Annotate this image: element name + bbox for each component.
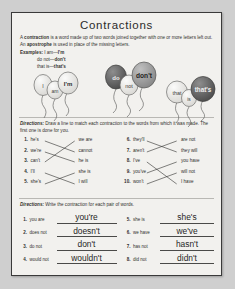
example-words-0: I am xyxy=(44,50,53,55)
table-row[interactable]: 2. we're cannot xyxy=(19,148,117,159)
matching-column-right: 6. they'll are not 7. aren't they will 8… xyxy=(117,137,215,190)
example-contraction-1: don't xyxy=(54,57,65,62)
item-contraction: I've xyxy=(133,158,169,163)
item-number: 7. xyxy=(122,148,134,153)
term-contraction: contraction xyxy=(24,35,49,40)
item-words: will not xyxy=(169,169,195,174)
item-word-pair: would not xyxy=(30,257,57,264)
item-number: 5. xyxy=(123,217,134,224)
answer-blank[interactable]: we've xyxy=(160,226,214,238)
divider-2 xyxy=(19,198,214,199)
examples-line-2: do not—don't xyxy=(20,57,66,64)
answer-blank[interactable]: you're xyxy=(57,212,117,224)
item-number: 7. xyxy=(123,244,134,251)
item-words: they will xyxy=(169,148,197,153)
item-contraction: she's xyxy=(31,179,67,184)
balloon-dont: don't xyxy=(132,62,156,88)
item-word-pair: do not xyxy=(30,244,57,251)
item-contraction: we're xyxy=(31,148,67,153)
writing-column-right: 5. she is she's 6. we have we've 7. has … xyxy=(117,210,215,264)
item-number: 4. xyxy=(19,169,31,174)
item-word-pair: we have xyxy=(133,230,160,237)
answer-blank[interactable]: wouldn't xyxy=(57,253,117,265)
directions-2-label: Directions: xyxy=(20,202,44,207)
item-contraction: can't xyxy=(31,158,67,163)
directions-1-label: Directions: xyxy=(20,121,44,126)
example-words-2: that is xyxy=(37,64,49,69)
item-number: 6. xyxy=(122,137,134,142)
answer-blank[interactable]: don't xyxy=(57,239,117,251)
balloon-label-not: not xyxy=(125,83,133,89)
balloon-am: am xyxy=(47,81,63,99)
table-row[interactable]: 8. I've you have xyxy=(122,158,215,169)
item-contraction: he's xyxy=(31,137,67,142)
item-contraction: they'll xyxy=(133,137,169,142)
item-number: 2. xyxy=(19,230,30,237)
answer-blank[interactable]: she's xyxy=(160,212,214,224)
examples-label: Examples: xyxy=(20,50,43,55)
item-number: 1. xyxy=(19,137,31,142)
balloon-i: I xyxy=(34,75,52,96)
list-item[interactable]: 3. do not don't xyxy=(19,237,117,251)
intro-post: is used in place of the missing letters. xyxy=(52,42,130,47)
item-word-pair: you are xyxy=(30,217,57,224)
balloon-thats: that's xyxy=(191,77,215,102)
writing-exercise: 1. you are you're 2. does not doesn't 3.… xyxy=(12,208,221,264)
page-title: Contractions xyxy=(12,19,221,31)
answer-blank[interactable]: doesn't xyxy=(57,226,117,238)
item-word-pair: she is xyxy=(133,217,160,224)
balloon-label-im: I'm xyxy=(64,81,72,87)
item-words: you have xyxy=(169,158,200,163)
balloon-label-thats: that's xyxy=(195,86,212,93)
table-row[interactable]: 9. you've will not xyxy=(122,169,215,180)
balloon-label-that: that xyxy=(173,90,182,96)
table-row[interactable]: 10. won't I have xyxy=(122,179,215,190)
item-word-pair: has not xyxy=(133,244,160,251)
table-row[interactable]: 7. aren't they will xyxy=(122,148,215,159)
item-number: 6. xyxy=(123,230,134,237)
answer-blank[interactable]: didn't xyxy=(160,253,214,265)
item-number: 1. xyxy=(19,217,30,224)
item-number: 8. xyxy=(123,257,134,264)
balloon-do: do xyxy=(106,65,127,89)
term-apostrophe: apostrophe xyxy=(27,42,52,47)
balloon-label-is: is xyxy=(187,97,191,102)
directions-2-text: Write the contraction for each pair of w… xyxy=(44,202,134,207)
item-words: I will xyxy=(67,179,88,184)
example-contraction-2: that's xyxy=(54,64,66,69)
item-number: 4. xyxy=(19,257,30,264)
table-row[interactable]: 6. they'll are not xyxy=(122,137,215,148)
list-item[interactable]: 2. does not doesn't xyxy=(19,224,117,238)
examples-list: Examples: I am—I'm do not—don't that is—… xyxy=(20,50,66,70)
table-row[interactable]: 3. can't he is xyxy=(19,158,117,169)
balloon-im: I'm xyxy=(58,72,78,94)
directions-1-text: Draw a line to match each contraction to… xyxy=(20,121,208,132)
item-words: are not xyxy=(169,137,195,142)
list-item[interactable]: 6. we have we've xyxy=(123,224,215,238)
list-item[interactable]: 4. would not wouldn't xyxy=(19,251,117,265)
examples-section: Examples: I am—I'm do not—don't that is—… xyxy=(12,48,221,114)
directions-1: Directions: Draw a line to match each co… xyxy=(12,121,221,134)
item-words: she is xyxy=(67,169,91,174)
list-item[interactable]: 7. has not hasn't xyxy=(123,237,215,251)
item-number: 2. xyxy=(19,148,31,153)
table-row[interactable]: 4. I'll she is xyxy=(19,169,117,180)
answer-blank[interactable]: hasn't xyxy=(160,239,214,251)
worksheet-page: Contractions A contraction is a word mad… xyxy=(0,0,235,289)
item-number: 3. xyxy=(19,244,30,251)
item-word-pair: does not xyxy=(30,230,57,237)
example-contraction-0: I'm xyxy=(58,50,64,55)
table-row[interactable]: 5. she's I will xyxy=(19,179,117,190)
item-number: 8. xyxy=(122,158,134,163)
balloon-is: is xyxy=(182,90,197,107)
matching-column-left: 1. he's we are 2. we're cannot 3. can't … xyxy=(19,137,117,190)
table-row[interactable]: 1. he's we are xyxy=(19,137,117,148)
list-item[interactable]: 1. you are you're xyxy=(19,210,117,224)
worksheet-sheet: Contractions A contraction is a word mad… xyxy=(11,12,222,276)
item-contraction: won't xyxy=(133,179,169,184)
item-word-pair: did not xyxy=(133,257,160,264)
balloon-that: that xyxy=(167,81,188,103)
list-item[interactable]: 8. did not didn't xyxy=(123,251,215,265)
example-words-1: do not xyxy=(37,57,50,62)
list-item[interactable]: 5. she is she's xyxy=(123,210,215,224)
